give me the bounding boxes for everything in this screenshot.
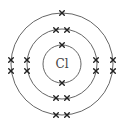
nucleus-label: Cl <box>55 57 68 71</box>
bohr-diagram: Cl <box>0 0 123 130</box>
bohr-diagram-svg: Cl <box>0 0 123 130</box>
electron-cross-icon <box>94 58 99 63</box>
